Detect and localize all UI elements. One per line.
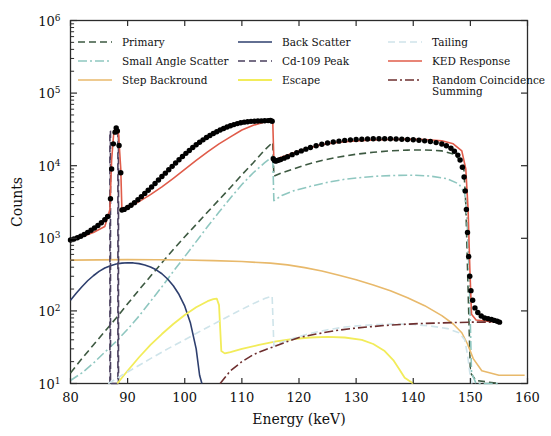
data-point xyxy=(371,136,376,141)
data-point xyxy=(472,305,477,310)
figure-container: 8090100110120130140150160101102103104105… xyxy=(0,0,551,436)
data-point xyxy=(308,145,313,150)
legend-label: Step Backround xyxy=(122,74,208,86)
x-tick-label: 140 xyxy=(401,390,426,405)
data-point xyxy=(460,165,465,170)
x-tick-label: 110 xyxy=(229,390,254,405)
data-point xyxy=(405,137,410,142)
x-tick-label: 130 xyxy=(344,390,369,405)
data-point xyxy=(470,298,475,303)
data-point xyxy=(457,157,462,162)
data-point xyxy=(336,138,341,143)
legend-label: Primary xyxy=(122,36,165,48)
data-point xyxy=(116,143,121,148)
data-point xyxy=(428,139,433,144)
data-point xyxy=(269,119,274,124)
x-tick-label: 160 xyxy=(515,390,540,405)
data-point xyxy=(331,139,336,144)
data-point xyxy=(365,136,370,141)
y-tick-label: 103 xyxy=(38,230,61,246)
data-point xyxy=(466,254,471,259)
data-point xyxy=(461,174,466,179)
data-point xyxy=(105,214,110,219)
y-axis-title: Counts xyxy=(9,177,25,227)
y-tick-label: 104 xyxy=(38,158,61,174)
x-tick-label: 120 xyxy=(287,390,312,405)
data-point xyxy=(416,138,421,143)
legend-label: Cd-109 Peak xyxy=(282,55,350,67)
data-point xyxy=(467,274,472,279)
data-point xyxy=(393,136,398,141)
data-point xyxy=(108,196,113,201)
data-point xyxy=(411,137,416,142)
x-tick-label: 90 xyxy=(119,390,136,405)
data-point xyxy=(348,137,353,142)
x-tick-label: 80 xyxy=(62,390,79,405)
data-point xyxy=(468,288,473,293)
data-point xyxy=(388,136,393,141)
x-tick-label: 150 xyxy=(458,390,483,405)
data-point xyxy=(111,141,116,146)
data-point xyxy=(455,152,460,157)
x-tick-label: 100 xyxy=(172,390,197,405)
data-point xyxy=(342,138,347,143)
data-point xyxy=(313,143,318,148)
legend-label: KED Response xyxy=(432,55,510,67)
legend-label: Small Angle Scatter xyxy=(122,55,229,67)
y-tick-label: 101 xyxy=(38,376,60,392)
legend-label: Tailing xyxy=(432,36,468,48)
y-tick-label: 106 xyxy=(38,13,61,29)
data-point xyxy=(399,136,404,141)
y-tick-label: 102 xyxy=(38,303,60,319)
data-point xyxy=(325,140,330,145)
data-point xyxy=(465,230,470,235)
data-point xyxy=(422,138,427,143)
data-point xyxy=(115,128,120,133)
data-point xyxy=(497,319,502,324)
data-point xyxy=(382,136,387,141)
data-point xyxy=(353,137,358,142)
legend-label: Back Scatter xyxy=(282,36,352,48)
data-point xyxy=(359,136,364,141)
data-point xyxy=(376,136,381,141)
spectrum-chart: 8090100110120130140150160101102103104105… xyxy=(0,0,551,436)
data-point xyxy=(464,207,469,212)
data-point xyxy=(444,143,449,148)
data-point xyxy=(109,166,114,171)
x-axis-title: Energy (keV) xyxy=(252,411,345,427)
data-point xyxy=(433,140,438,145)
data-point xyxy=(463,188,468,193)
y-tick-label: 105 xyxy=(38,85,61,101)
data-point xyxy=(118,170,123,175)
legend-label: Escape xyxy=(282,74,320,86)
data-point xyxy=(319,142,324,147)
